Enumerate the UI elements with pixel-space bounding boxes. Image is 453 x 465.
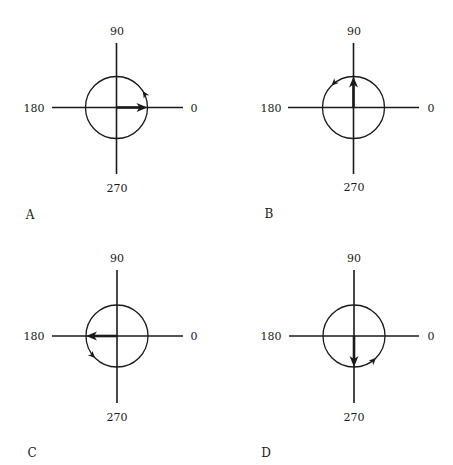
axis-label-180: 180	[24, 330, 45, 343]
axis-label-180: 180	[24, 102, 45, 115]
axis-label-90: 90	[110, 25, 124, 38]
vector-arrow	[117, 103, 148, 112]
panel-c: 90 180 0 270 C	[24, 252, 198, 460]
axis-label-0: 0	[191, 330, 198, 343]
axis-label-0: 0	[428, 102, 435, 115]
vector-arrow	[350, 336, 359, 367]
axis-label-180: 180	[261, 102, 282, 115]
axis-label-270: 270	[107, 411, 128, 424]
vector-arrow	[86, 332, 117, 341]
axis-label-270: 270	[107, 182, 128, 195]
vector-rotation-figure: 90 180 0 270 A 90 180 0 270 B 90 180 0	[0, 0, 453, 465]
axis-label-270: 270	[344, 411, 365, 424]
vector-arrow	[349, 77, 358, 108]
axis-label-90: 90	[110, 252, 124, 265]
axis-label-90: 90	[347, 252, 361, 265]
panel-label: A	[25, 208, 35, 222]
panel-a: 90 180 0 270 A	[24, 25, 198, 222]
axis-label-270: 270	[344, 181, 365, 194]
panel-b: 90 180 0 270 B	[261, 25, 435, 221]
figure-canvas: 90 180 0 270 A 90 180 0 270 B 90 180 0	[0, 0, 453, 465]
axis-label-0: 0	[428, 330, 435, 343]
axis-label-0: 0	[191, 102, 198, 115]
panel-label: B	[265, 207, 274, 221]
panel-d: 90 180 0 270 D	[261, 252, 435, 460]
panel-label: C	[27, 446, 36, 460]
axis-label-90: 90	[347, 25, 361, 38]
panel-label: D	[261, 446, 271, 460]
axis-label-180: 180	[261, 330, 282, 343]
